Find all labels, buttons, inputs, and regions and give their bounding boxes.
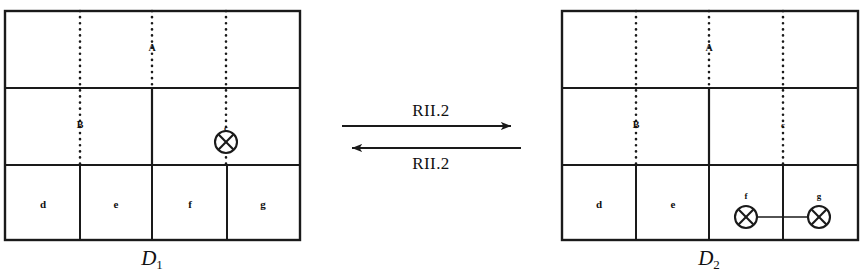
backward-move-label: RII.2 bbox=[412, 155, 449, 172]
reidemeister-move-figure: B A c d e f g D1 RII.2 RII.2 B A c d e f… bbox=[0, 0, 864, 280]
left-strand-label-B: B bbox=[77, 120, 84, 130]
right-cell-label-g: g bbox=[817, 192, 822, 201]
left-cell-label-f: f bbox=[188, 199, 192, 210]
left-diagram-name-subscript: 1 bbox=[156, 257, 163, 272]
left-diagram-name-base: D bbox=[141, 246, 156, 270]
left-diagram-name: D1 bbox=[141, 248, 163, 271]
right-crossing-g-icon bbox=[808, 206, 830, 228]
right-strand-label-B: B bbox=[633, 120, 640, 130]
right-strand-label-A: A bbox=[705, 43, 712, 53]
forward-move-label: RII.2 bbox=[412, 102, 449, 119]
right-diagram-name-subscript: 2 bbox=[713, 257, 720, 272]
move-arrows-group bbox=[342, 126, 521, 148]
right-cell-label-d: d bbox=[596, 199, 602, 210]
left-cell-label-d: d bbox=[40, 199, 46, 210]
right-strand-label-c: c bbox=[781, 121, 785, 130]
left-strand-label-A: A bbox=[148, 43, 155, 53]
right-cell-label-e: e bbox=[671, 199, 676, 210]
left-crossing-c-icon bbox=[215, 131, 237, 153]
left-cell-label-g: g bbox=[260, 199, 266, 210]
right-diagram-name-base: D bbox=[698, 246, 713, 270]
right-crossing-f-icon bbox=[735, 206, 757, 228]
right-diagram-name: D2 bbox=[698, 248, 720, 271]
left-strand-label-c: c bbox=[224, 124, 228, 133]
left-cell-label-e: e bbox=[114, 199, 119, 210]
diagram-canvas bbox=[0, 0, 864, 280]
right-cell-label-f: f bbox=[745, 192, 748, 201]
